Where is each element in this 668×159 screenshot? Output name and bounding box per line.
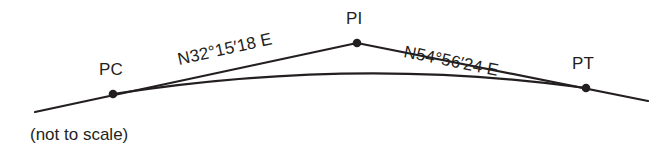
ahead-tangent-line bbox=[357, 43, 648, 101]
horizontal-curve-diagram: PC PI PT N32°15′18 E N54°56′24 E (not to… bbox=[0, 0, 668, 159]
point-marker-pc bbox=[109, 90, 118, 99]
point-label-pt: PT bbox=[572, 54, 594, 74]
curve-arc bbox=[113, 73, 586, 94]
scale-note: (not to scale) bbox=[30, 125, 128, 145]
point-label-pi: PI bbox=[346, 9, 362, 29]
point-label-pc: PC bbox=[99, 60, 123, 80]
point-marker-pt bbox=[582, 84, 591, 93]
point-marker-pi bbox=[353, 39, 362, 48]
